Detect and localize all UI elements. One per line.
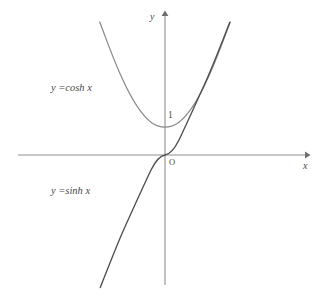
y-axis-label: y — [150, 11, 154, 22]
sinh-equation-text: y =sinh x — [51, 185, 90, 196]
sinh-equation-label: y =sinh x — [51, 185, 90, 196]
cosh-equation-label: y =cosh x — [51, 82, 92, 93]
y-intercept-tick-label: 1 — [168, 110, 173, 120]
x-axis-arrowhead — [305, 152, 311, 159]
origin-label: O — [169, 157, 175, 167]
x-axis-label: x — [303, 160, 307, 171]
y-axis-arrowhead — [162, 11, 169, 17]
hyperbolic-functions-figure: y =cosh x y =sinh x y x 1 O — [0, 0, 323, 303]
cosh-equation-text: y =cosh x — [51, 82, 92, 93]
plot-canvas — [0, 0, 323, 303]
